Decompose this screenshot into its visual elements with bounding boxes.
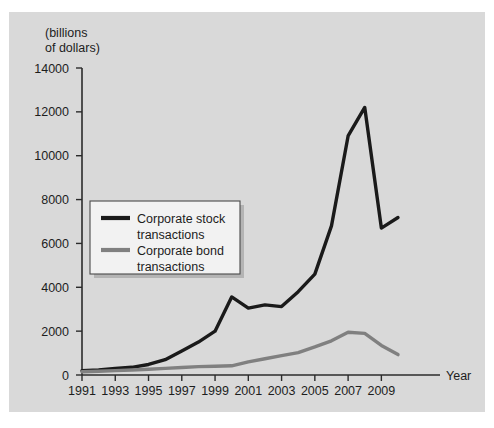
- legend-label-bond-line1: Corporate bond: [137, 244, 224, 258]
- chart-figure: 02000400060008000100001200014000 1991199…: [0, 0, 494, 428]
- y-axis-tick-labels: 02000400060008000100001200014000: [34, 62, 69, 383]
- y-tick-label: 4000: [41, 281, 69, 295]
- chart-legend: Corporate stock transactions Corporate b…: [90, 201, 244, 278]
- y-tick-label: 12000: [34, 105, 69, 119]
- x-tick-label: 2005: [301, 384, 329, 398]
- y-axis-unit-caption-line1: (billions: [45, 26, 87, 40]
- y-axis-tick-marks: [76, 68, 82, 375]
- y-tick-label: 0: [62, 369, 69, 383]
- x-tick-label: 2007: [334, 384, 362, 398]
- y-tick-label: 10000: [34, 149, 69, 163]
- x-tick-label: 1995: [135, 384, 163, 398]
- x-tick-label: 1999: [201, 384, 229, 398]
- legend-label-stock-line2: transactions: [137, 228, 204, 242]
- x-axis-tick-labels: 1991199319951997199920012003200520072009: [68, 384, 395, 398]
- legend-label-stock-line1: Corporate stock: [137, 212, 226, 226]
- x-tick-label: 2001: [234, 384, 262, 398]
- y-tick-label: 14000: [34, 62, 69, 76]
- line-chart: 02000400060008000100001200014000 1991199…: [0, 0, 494, 428]
- x-tick-label: 1993: [101, 384, 129, 398]
- x-tick-label: 1991: [68, 384, 96, 398]
- y-tick-label: 2000: [41, 325, 69, 339]
- x-axis-label: Year: [446, 369, 471, 383]
- y-tick-label: 8000: [41, 193, 69, 207]
- y-tick-label: 6000: [41, 237, 69, 251]
- x-tick-label: 1997: [168, 384, 196, 398]
- y-axis-unit-caption-line2: of dollars): [45, 41, 100, 55]
- x-axis-tick-marks: [82, 375, 381, 381]
- x-tick-label: 2009: [367, 384, 395, 398]
- legend-label-bond-line2: transactions: [137, 260, 204, 274]
- x-tick-label: 2003: [268, 384, 296, 398]
